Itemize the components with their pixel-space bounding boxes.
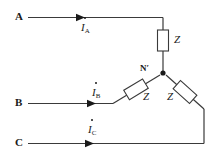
impedance-label-za: Z — [174, 34, 180, 45]
current-subscript-ic: C — [92, 129, 97, 137]
circuit-diagram: A B C IA IB IC N′ Z Z Z — [0, 0, 221, 164]
neutral-node-dot — [160, 70, 165, 75]
impedance-zc-body — [173, 81, 197, 104]
terminal-label-a: A — [15, 11, 23, 22]
impedance-label-zb: Z — [143, 91, 149, 102]
current-label-ib: IB — [92, 87, 100, 98]
impedance-zc-group — [173, 81, 197, 104]
current-subscript-ib: B — [96, 92, 101, 100]
current-arrow-ic-icon — [85, 140, 94, 147]
impedance-za-body — [158, 30, 169, 51]
impedance-label-zc: Z — [167, 91, 173, 102]
terminal-label-b: B — [15, 97, 22, 108]
neutral-node-label: N′ — [140, 64, 149, 73]
current-subscript-ia: A — [85, 27, 90, 35]
current-label-ic: IC — [88, 124, 96, 135]
current-label-ia: IA — [81, 22, 90, 33]
terminal-label-c: C — [15, 137, 23, 148]
current-arrow-ib-icon — [87, 100, 96, 107]
circuit-schematic-canvas — [0, 0, 221, 164]
